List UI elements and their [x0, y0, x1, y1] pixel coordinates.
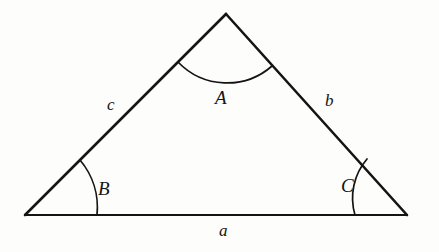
angle-label-C: C	[341, 176, 354, 195]
side-b-line	[226, 14, 407, 215]
angle-arc-A	[178, 62, 272, 83]
triangle-figure: A B C a b c	[0, 0, 439, 252]
angle-arc-B	[80, 160, 97, 215]
side-label-a: a	[219, 222, 228, 239]
side-c-line	[25, 14, 226, 215]
angle-label-B: B	[98, 179, 110, 198]
triangle-drawing	[0, 0, 439, 252]
side-label-b: b	[325, 92, 334, 109]
angle-label-A: A	[215, 88, 227, 107]
side-label-c: c	[107, 96, 115, 113]
